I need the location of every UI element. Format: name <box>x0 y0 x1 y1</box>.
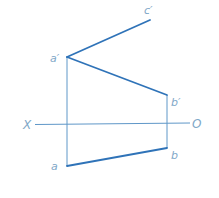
label-axis-x: X <box>22 118 32 132</box>
label-a-prime: a′ <box>50 52 60 65</box>
label-b-prime: b′ <box>171 96 181 109</box>
line-a-prime-b-prime <box>67 57 167 95</box>
label-c-prime: c′ <box>144 4 153 17</box>
line-a-prime-c-prime <box>67 20 150 57</box>
label-a: a <box>51 160 58 173</box>
line-a-b <box>67 148 167 166</box>
label-axis-o: O <box>192 117 201 131</box>
label-b: b <box>171 149 178 162</box>
projection-diagram: c′ a′ b′ a b X O <box>0 0 219 198</box>
